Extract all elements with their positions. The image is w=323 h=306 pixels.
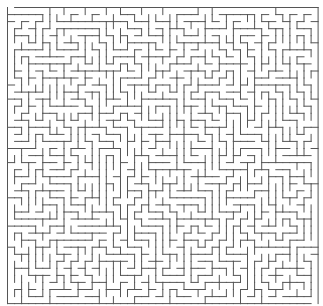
maze-walls xyxy=(0,0,323,306)
maze-board xyxy=(0,0,323,306)
